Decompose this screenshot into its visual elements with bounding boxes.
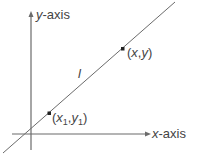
- line-l: [3, 2, 175, 153]
- point-x-y-label: (x,y): [127, 46, 152, 59]
- point-x-y-marker: [121, 47, 125, 51]
- x-axis-label-suffix: -axis: [159, 126, 186, 141]
- paren-close: ): [148, 45, 152, 60]
- y-axis-label-suffix: -axis: [43, 7, 70, 22]
- x-axis-label: x-axis: [152, 127, 186, 140]
- point-x1-y1-label: (x1,y1): [52, 111, 87, 127]
- x-axis-arrow-icon: [145, 132, 151, 137]
- y-axis-label: y-axis: [36, 8, 70, 21]
- y-axis-arrow-icon: [29, 11, 34, 17]
- line-label: l: [78, 67, 81, 80]
- point-x1-y1-marker: [48, 112, 52, 116]
- paren-close: ): [83, 110, 87, 125]
